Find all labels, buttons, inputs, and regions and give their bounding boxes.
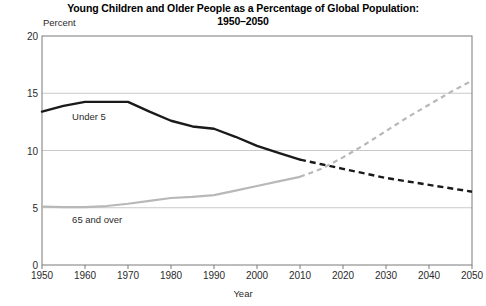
series-label-65-and-over: 65 and over [72,214,122,225]
x-axis-tick-label: 2020 [332,270,354,281]
series-line-projected-0 [300,160,472,192]
plot-svg [0,0,486,306]
x-axis-tick-label: 1980 [160,270,182,281]
series-line-solid-1 [42,177,300,207]
y-axis-tick-label: 15 [10,88,38,99]
x-axis-tick-label: 2030 [375,270,397,281]
x-axis-tick-label: 1990 [203,270,225,281]
x-axis-title: Year [0,288,486,299]
x-axis-tick-label: 1970 [117,270,139,281]
series-label-under-5: Under 5 [72,111,106,122]
y-axis-tick-label: 5 [10,202,38,213]
y-axis-tick-label: 20 [10,31,38,42]
x-axis-tick-label: 2040 [418,270,440,281]
x-axis-tick-label: 1960 [74,270,96,281]
x-axis-tick-label: 1950 [31,270,53,281]
y-axis-tick-label: 10 [10,145,38,156]
x-axis-tick-label: 2000 [246,270,268,281]
chart-figure: Young Children and Older People as a Per… [0,0,486,306]
y-axis-tick-label: 0 [10,260,38,271]
series-line-projected-1 [300,81,472,177]
y-axis-tick-labels: 05101520 [4,0,38,306]
x-axis-tick-label: 2010 [289,270,311,281]
x-axis-tick-label: 2050 [461,270,483,281]
